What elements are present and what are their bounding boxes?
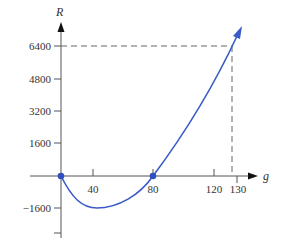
x-axis-label: g (263, 169, 269, 183)
y-ticks (54, 46, 61, 233)
curve-arrow-icon (233, 26, 242, 39)
y-tick-label-6400: 6400 (29, 40, 52, 52)
x-tick-label-130: 130 (230, 183, 247, 195)
y-axis-arrow-icon (58, 22, 65, 32)
y-tick-label-3200: 3200 (29, 105, 52, 117)
curve-R-of-g (61, 34, 238, 208)
x-tick-label-80: 80 (148, 183, 160, 195)
y-tick-label-4800: 4800 (29, 73, 52, 85)
x-axis-arrow-icon (248, 173, 258, 180)
x-tick-label-40: 40 (88, 183, 100, 195)
chart-canvas: R g 6400 4800 3200 1600 −1600 40 80 120 … (0, 0, 284, 248)
y-axis-label: R (55, 5, 64, 19)
y-tick-label-1600: 1600 (29, 137, 52, 149)
y-tick-label-neg1600: −1600 (23, 202, 52, 214)
x-tick-label-120: 120 (206, 183, 223, 195)
point-origin (58, 173, 65, 180)
point-80 (150, 173, 157, 180)
